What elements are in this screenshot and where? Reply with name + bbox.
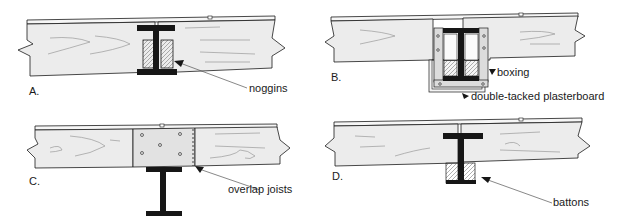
panel-a <box>18 16 285 88</box>
leader-arrow-plasterboard <box>462 93 469 99</box>
panel-c <box>27 124 290 216</box>
joist-right-c <box>195 127 290 166</box>
panel-label-b: B. <box>331 72 341 83</box>
noggin-right-b <box>465 60 478 76</box>
noggin-left-b <box>444 60 457 76</box>
joist-right-a <box>158 20 285 72</box>
steel-i-beam-c <box>146 167 182 216</box>
joist-left-c <box>27 129 133 168</box>
panel-label-c: C. <box>29 176 40 187</box>
boxing-right-b <box>479 28 488 82</box>
boxing-left-b <box>434 28 443 82</box>
callout-noggins: noggins <box>249 83 288 94</box>
panel-label-d: D. <box>332 171 343 182</box>
diagram-canvas <box>0 0 622 224</box>
callout-plasterboard: double-tacked plasterboard <box>471 91 604 102</box>
leader-arrow-boxing <box>489 69 496 75</box>
leader-arrow-battons <box>481 177 552 203</box>
panel-d <box>325 118 590 203</box>
callout-battons: battons <box>553 197 589 208</box>
joist-overlap-c <box>133 128 195 167</box>
noggin-right-a <box>161 40 173 68</box>
panel-label-a: A. <box>29 86 39 97</box>
boxing-bottom-b <box>434 80 488 87</box>
joist-left-b <box>325 19 433 62</box>
joist-left-d <box>325 124 458 166</box>
callout-boxing: boxing <box>497 67 529 78</box>
callout-overlap-joists: overlap joists <box>228 184 292 195</box>
joist-right-d <box>461 122 590 162</box>
joist-left-a <box>18 22 155 76</box>
panel-b <box>325 13 585 99</box>
